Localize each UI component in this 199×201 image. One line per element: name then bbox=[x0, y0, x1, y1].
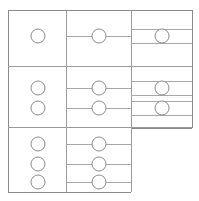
node-left-group-bottom-2[interactable] bbox=[31, 157, 45, 171]
node-left-group-middle-1[interactable] bbox=[31, 81, 45, 95]
connector-layer bbox=[66, 29, 192, 182]
node-middle-group-middle-2[interactable] bbox=[92, 101, 106, 115]
node-middle-group-middle-1[interactable] bbox=[92, 81, 106, 95]
node-layer bbox=[31, 29, 169, 189]
node-middle-group-bottom-2[interactable] bbox=[92, 157, 106, 171]
node-right-group-middle-2[interactable] bbox=[155, 101, 169, 115]
node-left-group-bottom-1[interactable] bbox=[31, 137, 45, 151]
node-middle-group-bottom-1[interactable] bbox=[92, 137, 106, 151]
node-left-group-bottom-3[interactable] bbox=[31, 175, 45, 189]
node-middle-group-bottom-3[interactable] bbox=[92, 175, 106, 189]
diagram-svg bbox=[0, 0, 199, 201]
diagram-canvas bbox=[0, 0, 199, 201]
node-middle-group-top-1[interactable] bbox=[92, 29, 106, 43]
node-left-group-top-1[interactable] bbox=[31, 29, 45, 43]
node-left-group-middle-2[interactable] bbox=[31, 101, 45, 115]
node-right-group-middle-1[interactable] bbox=[155, 81, 169, 95]
node-right-group-top-1[interactable] bbox=[155, 29, 169, 43]
